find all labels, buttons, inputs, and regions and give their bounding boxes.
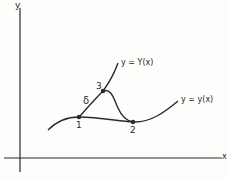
point-1-marker [77,115,81,119]
y-axis-label: y [15,1,20,10]
lower-curve-label: y = y(x) [181,96,213,104]
x-axis-label: x [222,153,227,161]
point-2-label: 2 [130,126,136,135]
connecting-curve [103,91,133,122]
point-2-marker [131,120,135,124]
point-1-label: 1 [76,121,82,130]
lower-curve [48,101,178,130]
variation-diagram: y x y = Y(x) y = y(x) 1 2 3 δ [0,0,227,179]
upper-curve-label: y = Y(x) [121,59,153,67]
delta-label: δ [83,96,89,106]
point-3-label: 3 [96,82,102,91]
diagram-canvas [0,0,227,179]
